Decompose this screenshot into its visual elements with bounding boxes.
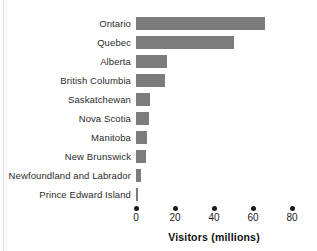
category-label: British Columbia xyxy=(0,71,131,90)
x-axis-tick-dot xyxy=(173,206,178,211)
x-axis-tick-dot xyxy=(134,206,139,211)
bar-row: Newfoundland and Labrador xyxy=(0,166,317,185)
bar-row: Alberta xyxy=(0,52,317,71)
category-label: Newfoundland and Labrador xyxy=(0,166,131,185)
bar xyxy=(136,17,265,30)
category-label: New Brunswick xyxy=(0,147,131,166)
category-label: Quebec xyxy=(0,33,131,52)
category-label: Ontario xyxy=(0,14,131,33)
plot-area: OntarioQuebecAlbertaBritish ColumbiaSask… xyxy=(0,0,317,251)
bar-row: Prince Edward Island xyxy=(0,185,317,204)
category-label: Alberta xyxy=(0,52,131,71)
bar-row: British Columbia xyxy=(0,71,317,90)
bar-row: Quebec xyxy=(0,33,317,52)
bar xyxy=(136,150,146,163)
category-label: Manitoba xyxy=(0,128,131,147)
category-label: Nova Scotia xyxy=(0,109,131,128)
bar-row: Nova Scotia xyxy=(0,109,317,128)
x-axis-tick-label: 80 xyxy=(277,212,307,223)
x-axis-tick-dot xyxy=(251,206,256,211)
bar-row: Saskatchewan xyxy=(0,90,317,109)
bar-row: New Brunswick xyxy=(0,147,317,166)
bar-row: Manitoba xyxy=(0,128,317,147)
bar xyxy=(136,188,138,201)
bar xyxy=(136,55,167,68)
bar-row: Ontario xyxy=(0,14,317,33)
bar-chart: OntarioQuebecAlbertaBritish ColumbiaSask… xyxy=(0,0,317,251)
bar xyxy=(136,169,141,182)
category-label: Saskatchewan xyxy=(0,90,131,109)
bar xyxy=(136,36,234,49)
bar xyxy=(136,131,147,144)
bar xyxy=(136,74,165,87)
x-axis-tick-label: 20 xyxy=(160,212,190,223)
category-label: Prince Edward Island xyxy=(0,185,131,204)
bar xyxy=(136,93,150,106)
x-axis-tick-label: 40 xyxy=(199,212,229,223)
x-axis-tick-label: 60 xyxy=(238,212,268,223)
x-axis-title: Visitors (millions) xyxy=(136,231,292,243)
x-axis-tick-label: 0 xyxy=(121,212,151,223)
x-axis-tick-dot xyxy=(212,206,217,211)
bar xyxy=(136,112,149,125)
x-axis-tick-dot xyxy=(290,206,295,211)
